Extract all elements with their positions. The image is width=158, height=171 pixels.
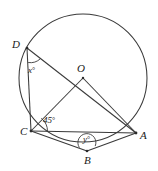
angle-x-degree: ° [32,66,35,75]
angle-arc-d [28,59,40,63]
angle-c-value: 45 [43,115,52,125]
angle-c-degree: ° [52,116,55,125]
label-angle-y: y° [83,135,90,144]
label-point-c: C [20,126,27,137]
segment-c-b [31,131,87,151]
angle-y-degree: ° [87,135,90,144]
segment-c-o [31,78,83,131]
label-point-d: D [12,39,20,50]
label-angle-45: 45° [43,116,55,125]
vertex-dot-b [86,150,89,153]
vertex-dot-a [135,132,138,135]
vertex-dot-c [30,130,33,133]
vertex-dot-d [26,47,29,50]
geometry-svg [0,0,158,171]
segment-o-a [83,78,136,133]
label-point-a: A [140,130,147,141]
segment-c-a [31,131,136,133]
label-angle-x: x° [28,66,35,75]
geometry-figure: D O C A B x° 45° y° [0,0,158,171]
segment-d-c [27,48,31,131]
label-point-b: B [84,155,91,166]
label-point-o: O [77,63,85,74]
vertex-dot-o [82,77,84,79]
